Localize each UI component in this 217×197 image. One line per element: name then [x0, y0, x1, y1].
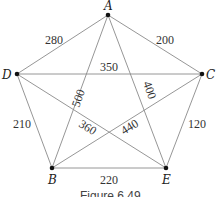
weight-d-e: 360 [76, 117, 99, 138]
node-b [50, 166, 55, 171]
node-e [164, 166, 169, 171]
weight-a-e: 400 [140, 79, 159, 101]
figure-caption: Figure 6.49 [80, 189, 141, 197]
node-a [106, 13, 111, 18]
label-b: B [47, 173, 57, 187]
weight-c-e: 120 [188, 117, 206, 131]
label-c: C [206, 68, 215, 82]
nodes [15, 13, 205, 171]
label-a: A [103, 0, 113, 13]
weight-a-d: 280 [45, 33, 63, 47]
label-e: E [161, 173, 171, 187]
node-d [15, 72, 20, 77]
edge-weights: 280 200 350 500 400 360 440 210 120 220 [13, 33, 206, 187]
weight-d-b: 210 [13, 117, 31, 131]
weight-c-b: 440 [118, 116, 141, 137]
weight-a-b: 500 [69, 87, 88, 109]
weight-b-e: 220 [100, 173, 118, 187]
vertex-labels: A B C D E [1, 0, 215, 187]
weight-a-c: 200 [156, 33, 174, 47]
weighted-graph-diagram: 280 200 350 500 400 360 440 210 120 220 … [0, 0, 217, 197]
label-d: D [1, 68, 12, 82]
weight-d-c: 350 [100, 60, 118, 74]
node-c [200, 72, 205, 77]
edge-a-c [108, 15, 202, 74]
